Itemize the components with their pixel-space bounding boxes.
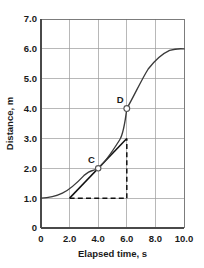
x-tick-label-10: 10.0	[175, 233, 194, 244]
x-tick-label-6: 6.0	[120, 233, 133, 244]
x-tick-label-8: 8.0	[149, 233, 162, 244]
distance-time-chart-figure: C D 7.0 6.0 5.0 4.0 3.0 2.0 1.0 0 0 2.0 …	[0, 0, 204, 268]
y-tick-label-7: 7.0	[24, 13, 37, 24]
x-tick-label-2: 2.0	[63, 233, 76, 244]
y-tick-label-4: 4.0	[24, 103, 37, 114]
x-tick-label-4: 4.0	[92, 233, 105, 244]
y-tick-label-6: 6.0	[24, 43, 37, 54]
y-tick-label-2: 2.0	[24, 163, 37, 174]
point-d-label: D	[117, 94, 124, 105]
y-tick-label-1: 1.0	[24, 193, 37, 204]
y-axis-title: Distance, m	[4, 97, 15, 150]
y-tick-label-5: 5.0	[24, 73, 37, 84]
x-tick-label-0: 0	[38, 233, 43, 244]
point-c-label: C	[88, 154, 95, 165]
x-axis-title: Elapsed time, s	[78, 248, 147, 259]
chart-svg: C D 7.0 6.0 5.0 4.0 3.0 2.0 1.0 0 0 2.0 …	[0, 0, 204, 268]
y-tick-label-3: 3.0	[24, 133, 37, 144]
point-d-marker	[124, 106, 130, 112]
y-tick-label-0: 0	[32, 222, 37, 233]
point-c-marker	[96, 166, 101, 171]
